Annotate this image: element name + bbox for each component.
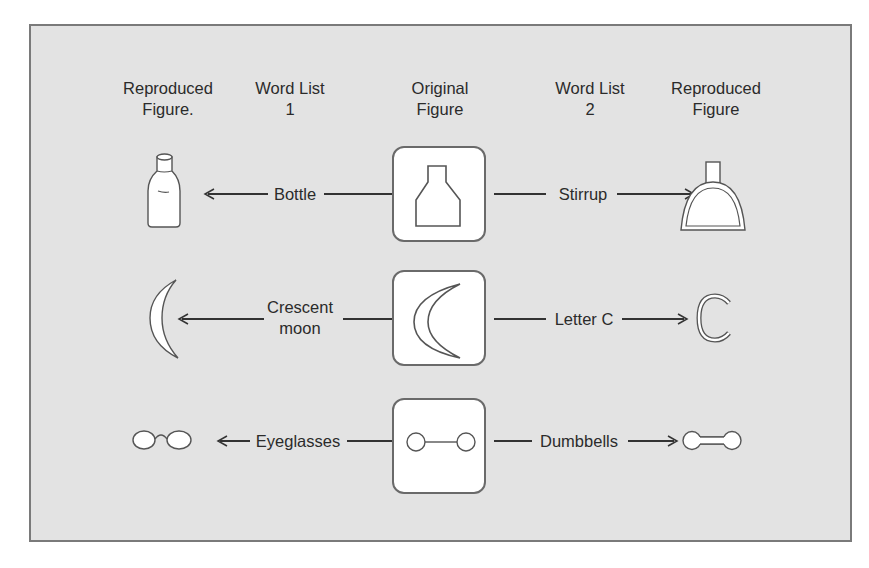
word-label-crescent-moon: Crescent moon [267, 297, 333, 339]
header-line: 2 [555, 99, 624, 120]
arrow-left-icon [203, 188, 215, 200]
connector-line [494, 193, 546, 195]
original-figure-box-2 [392, 270, 486, 366]
original-figure-box-1 [392, 146, 486, 242]
connector-line [494, 318, 546, 320]
connector-line [343, 318, 392, 320]
header-word-list-1: Word List 1 [255, 78, 324, 120]
reproduced-stirrup-icon [677, 160, 753, 232]
connector-line [622, 318, 684, 320]
connector-line [208, 193, 268, 195]
word-label-stirrup: Stirrup [559, 184, 608, 205]
header-line: Reproduced [123, 78, 213, 99]
reproduced-dumbbells-icon [681, 426, 751, 456]
reproduced-letter-c-icon [693, 293, 737, 345]
reproduced-bottle-icon [142, 151, 192, 231]
header-line: Figure [671, 99, 761, 120]
header-word-list-2: Word List 2 [555, 78, 624, 120]
word-label-dumbbells: Dumbbells [540, 431, 618, 452]
connector-line [347, 440, 392, 442]
connector-line [182, 318, 264, 320]
connector-line [494, 440, 532, 442]
label-line: moon [267, 318, 333, 339]
reproduced-crescent-moon-icon [146, 276, 186, 362]
reproduced-eyeglasses-icon [127, 425, 207, 455]
header-line: Figure [412, 99, 469, 120]
arrow-right-icon [667, 435, 679, 447]
header-line: Word List [255, 78, 324, 99]
connector-line [324, 193, 392, 195]
bottle-outline-icon [394, 148, 488, 244]
arrow-left-icon [216, 435, 228, 447]
header-line: Figure. [123, 99, 213, 120]
word-label-letter-c: Letter C [555, 309, 614, 330]
header-reproduced-figure-2: Reproduced Figure [671, 78, 761, 120]
header-original-figure: Original Figure [412, 78, 469, 120]
label-line: Crescent [267, 297, 333, 318]
word-label-eyeglasses: Eyeglasses [256, 431, 340, 452]
two-circles-joined-icon [394, 400, 488, 496]
arrow-right-icon [677, 313, 689, 325]
header-line: 1 [255, 99, 324, 120]
header-line: Reproduced [671, 78, 761, 99]
crescent-outline-icon [394, 272, 488, 368]
original-figure-box-3 [392, 398, 486, 494]
header-line: Original [412, 78, 469, 99]
word-label-bottle: Bottle [274, 184, 316, 205]
header-reproduced-figure-1: Reproduced Figure. [123, 78, 213, 120]
header-line: Word List [555, 78, 624, 99]
